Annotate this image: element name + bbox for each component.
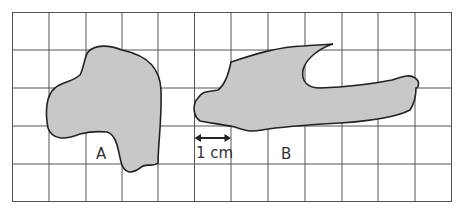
shape-b-label: B — [281, 145, 291, 163]
grid-diagram: A B 1 cm — [0, 0, 461, 210]
scale-label: 1 cm — [196, 144, 233, 162]
shape-a-label: A — [96, 145, 107, 163]
scale-arrow-icon — [195, 134, 232, 142]
shape-b — [194, 44, 418, 131]
